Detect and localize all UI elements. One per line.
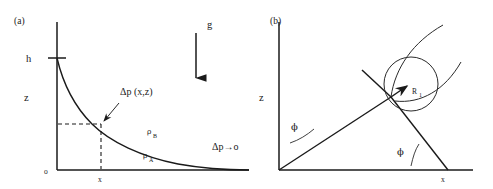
panel-b-rising-line [279,97,391,170]
angle-phi-right-label: ϕ [397,146,404,157]
panel-a-label: (a) [14,16,25,27]
panel-a-z-label: z [24,92,29,103]
panel-b-label: (b) [270,16,281,27]
osculating-circle [384,57,438,111]
delta-p-annotation: Δp (x,z) [120,86,153,98]
panel-b-angle-arc-right [411,144,419,166]
gravity-label: g [207,19,213,30]
density-lower-label: ρ [143,151,148,160]
panel-b: (b) z x ϕ ϕ R 1 [243,0,493,189]
asymptote-label: Δp→o [212,141,238,152]
panel-a-meniscus-curve [57,58,249,170]
panel-a-h-label: h [26,53,32,64]
panel-a-canvas: (a) h z o x g Δp (x,z) ρ B ρ A Δp→o [0,0,250,189]
panel-b-upper-left-ray [362,70,391,97]
panel-b-arc-right [395,62,461,101]
panel-a-callout-arrow [104,103,119,121]
panel-a-origin-label: o [44,167,48,176]
panel-b-x-tick-label: x [441,175,445,184]
figure-root: (a) h z o x g Δp (x,z) ρ B ρ A Δp→o [0,0,493,189]
density-upper-label: ρ [147,127,152,136]
radius-subscript: 1 [419,92,422,98]
panel-b-canvas: (b) z x ϕ ϕ R 1 [243,0,493,189]
angle-phi-left-label: ϕ [291,121,298,132]
density-upper-subscript: B [153,133,157,139]
panel-b-z-label: z [259,92,264,103]
radius-arrow-icon [391,86,407,97]
panel-a: (a) h z o x g Δp (x,z) ρ B ρ A Δp→o [0,0,250,189]
panel-a-x-tick-label: x [98,175,102,184]
density-lower-subscript: A [149,157,154,163]
radius-label: R [412,87,417,96]
